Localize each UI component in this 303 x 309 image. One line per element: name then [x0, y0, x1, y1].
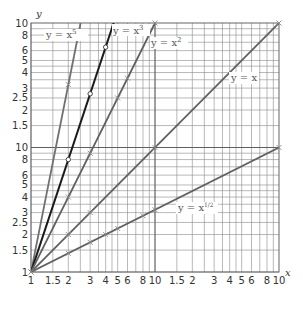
x-tick-label: 3 [211, 275, 217, 286]
y-tick-label: 4 [22, 67, 28, 78]
x-axis-label: x [285, 267, 291, 278]
x-tick-label: 1.5 [169, 275, 185, 286]
label-y-x3: y = x3 [112, 24, 144, 36]
x-tick-label: 10 [273, 275, 286, 286]
y-tick-label: 2 [22, 229, 28, 240]
y-axis-label: y [35, 8, 42, 19]
y-tick-label: 2.5 [12, 217, 28, 228]
x-tick-label: 2 [65, 275, 71, 286]
label-y-x5: y = x5 [45, 28, 77, 40]
x-tick-label: 4 [102, 275, 108, 286]
y-tick-label: 5 [22, 55, 28, 66]
point-marker [103, 45, 107, 49]
x-axis-ticks: 11.5234568101.523456810 [28, 275, 286, 286]
x-tick-label: 8 [264, 275, 270, 286]
y-tick-label: 10 [15, 142, 28, 153]
label-y-x2: y = x2 [150, 36, 182, 48]
x-tick-label: 5 [238, 275, 244, 286]
y-tick-label: 6 [22, 45, 28, 56]
y-tick-label: 1.5 [12, 120, 28, 131]
x-tick-label: 3 [87, 275, 93, 286]
x-tick-label: 4 [226, 275, 232, 286]
y-tick-label: 10 [15, 18, 28, 29]
y-tick-label: 8 [22, 154, 28, 165]
y-tick-label: 2 [22, 105, 28, 116]
x-tick-label: 1 [28, 275, 34, 286]
y-tick-label: 1.5 [12, 245, 28, 256]
x-tick-label: 5 [114, 275, 120, 286]
y-axis-ticks: 11.522.534568101.522.53456810 [12, 18, 28, 278]
x-tick-label: 1.5 [45, 275, 61, 286]
y-tick-label: 6 [22, 170, 28, 181]
y-tick-label: 3 [22, 83, 28, 94]
y-tick-label: 5 [22, 179, 28, 190]
x-tick-label: 2 [189, 275, 195, 286]
x-tick-label: 6 [124, 275, 130, 286]
y-tick-label: 1 [22, 267, 28, 278]
label-y-x: y = x [230, 72, 257, 83]
log-log-chart: 11.5234568101.523456810 11.522.534568101… [0, 0, 303, 309]
point-marker [66, 157, 70, 161]
x-tick-label: 10 [149, 275, 162, 286]
point-marker [88, 92, 92, 96]
x-tick-label: 8 [140, 275, 146, 286]
y-tick-label: 4 [22, 192, 28, 203]
y-tick-label: 8 [22, 30, 28, 41]
y-tick-label: 2.5 [12, 92, 28, 103]
x-tick-label: 6 [248, 275, 254, 286]
y-tick-label: 3 [22, 207, 28, 218]
